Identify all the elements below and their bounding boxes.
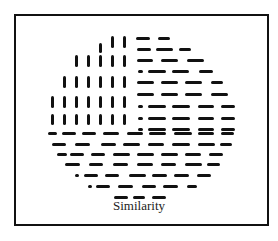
vertical-mark bbox=[75, 96, 78, 108]
vertical-mark bbox=[87, 96, 90, 108]
vertical-mark bbox=[87, 76, 90, 88]
horizontal-mark bbox=[187, 185, 197, 188]
horizontal-mark bbox=[161, 93, 178, 96]
horizontal-mark bbox=[197, 174, 211, 177]
horizontal-mark bbox=[221, 132, 234, 135]
horizontal-mark bbox=[179, 48, 191, 51]
vertical-mark bbox=[63, 96, 66, 108]
vertical-mark bbox=[63, 114, 66, 125]
horizontal-mark bbox=[185, 163, 202, 166]
horizontal-mark bbox=[161, 59, 178, 62]
vertical-mark bbox=[99, 96, 102, 108]
horizontal-mark bbox=[148, 117, 166, 120]
horizontal-mark bbox=[62, 132, 76, 135]
horizontal-mark bbox=[75, 174, 79, 177]
horizontal-mark bbox=[148, 70, 166, 73]
horizontal-mark bbox=[172, 105, 190, 108]
horizontal-mark bbox=[148, 128, 166, 131]
horizontal-mark bbox=[138, 117, 143, 120]
horizontal-mark bbox=[187, 59, 204, 62]
horizontal-mark bbox=[89, 163, 103, 166]
figure-caption: Similarity bbox=[0, 198, 278, 214]
horizontal-mark bbox=[221, 117, 235, 120]
vertical-mark bbox=[111, 36, 114, 48]
vertical-mark bbox=[51, 96, 54, 108]
horizontal-mark bbox=[137, 48, 151, 51]
horizontal-mark bbox=[172, 128, 190, 131]
horizontal-mark bbox=[198, 117, 214, 120]
horizontal-mark bbox=[48, 132, 57, 135]
horizontal-mark bbox=[198, 105, 214, 108]
vertical-mark bbox=[123, 55, 126, 67]
vertical-mark bbox=[111, 76, 114, 88]
horizontal-mark bbox=[105, 174, 119, 177]
horizontal-mark bbox=[198, 128, 214, 131]
vertical-mark bbox=[99, 43, 102, 53]
horizontal-mark bbox=[152, 174, 167, 177]
vertical-mark bbox=[99, 114, 102, 125]
horizontal-mark bbox=[163, 185, 178, 188]
horizontal-mark bbox=[118, 185, 133, 188]
horizontal-mark bbox=[221, 105, 235, 108]
horizontal-mark bbox=[137, 163, 153, 166]
horizontal-mark bbox=[52, 143, 66, 146]
horizontal-mark bbox=[198, 132, 214, 135]
vertical-mark bbox=[123, 76, 126, 88]
vertical-mark bbox=[63, 76, 66, 88]
horizontal-mark bbox=[172, 70, 189, 73]
horizontal-mark bbox=[148, 105, 166, 108]
horizontal-mark bbox=[161, 81, 178, 84]
horizontal-mark bbox=[174, 174, 189, 177]
horizontal-mark bbox=[101, 143, 116, 146]
horizontal-mark bbox=[75, 143, 90, 146]
horizontal-mark bbox=[70, 153, 84, 156]
horizontal-mark bbox=[138, 70, 143, 73]
horizontal-mark bbox=[156, 48, 173, 51]
horizontal-mark bbox=[220, 143, 232, 146]
horizontal-mark bbox=[57, 153, 67, 156]
horizontal-mark bbox=[138, 128, 143, 131]
horizontal-mark bbox=[211, 81, 223, 84]
vertical-mark bbox=[123, 96, 126, 108]
horizontal-mark bbox=[199, 70, 213, 73]
horizontal-mark bbox=[209, 153, 223, 156]
horizontal-mark bbox=[88, 185, 92, 188]
horizontal-mark bbox=[137, 93, 154, 96]
horizontal-mark bbox=[137, 153, 154, 156]
vertical-mark bbox=[75, 76, 78, 88]
vertical-mark bbox=[123, 114, 126, 125]
vertical-mark bbox=[111, 55, 114, 67]
vertical-mark bbox=[99, 76, 102, 88]
horizontal-mark bbox=[221, 128, 235, 131]
horizontal-mark bbox=[96, 185, 110, 188]
horizontal-mark bbox=[185, 81, 202, 84]
vertical-mark bbox=[87, 114, 90, 125]
horizontal-mark bbox=[172, 117, 190, 120]
horizontal-mark bbox=[129, 174, 146, 177]
horizontal-mark bbox=[185, 153, 201, 156]
horizontal-mark bbox=[198, 143, 215, 146]
horizontal-mark bbox=[113, 163, 128, 166]
vertical-mark bbox=[111, 96, 114, 108]
horizontal-mark bbox=[211, 93, 228, 96]
vertical-mark bbox=[111, 114, 114, 125]
horizontal-mark bbox=[174, 132, 192, 135]
horizontal-mark bbox=[123, 143, 140, 146]
horizontal-mark bbox=[142, 185, 156, 188]
horizontal-mark bbox=[137, 81, 154, 84]
horizontal-mark bbox=[138, 105, 143, 108]
horizontal-mark bbox=[137, 59, 153, 62]
horizontal-mark bbox=[172, 143, 190, 146]
horizontal-mark bbox=[84, 174, 98, 177]
horizontal-mark bbox=[127, 132, 143, 135]
horizontal-mark bbox=[207, 163, 220, 166]
vertical-mark bbox=[75, 114, 78, 125]
horizontal-mark bbox=[185, 93, 202, 96]
vertical-mark bbox=[123, 36, 126, 48]
horizontal-mark bbox=[91, 153, 105, 156]
vertical-mark bbox=[87, 55, 90, 67]
horizontal-mark bbox=[82, 132, 96, 135]
horizontal-mark bbox=[65, 163, 80, 166]
vertical-mark bbox=[99, 55, 102, 67]
horizontal-mark bbox=[148, 143, 164, 146]
